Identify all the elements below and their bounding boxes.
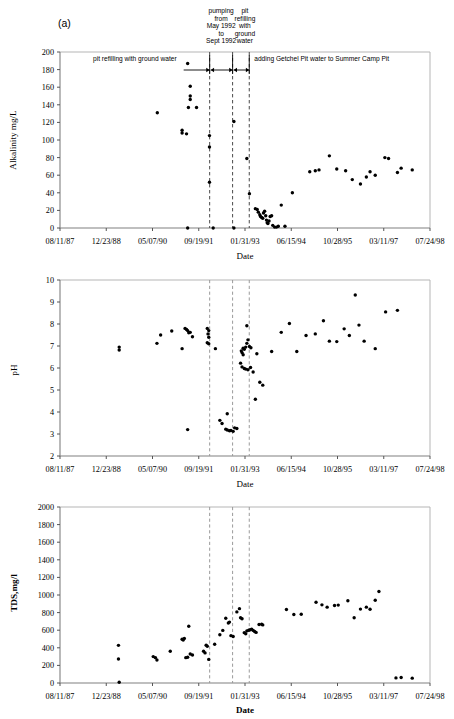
data-point: [374, 347, 377, 350]
data-point: [244, 345, 247, 348]
data-point: [308, 170, 311, 173]
data-point: [189, 85, 192, 88]
data-point: [203, 651, 206, 654]
data-point: [211, 226, 214, 229]
data-point: [328, 339, 331, 342]
y-tick-label: 0: [50, 224, 54, 233]
data-point: [387, 157, 390, 160]
y-tick-label: 200: [42, 661, 54, 670]
data-point: [359, 182, 362, 185]
x-tick-label: 08/11/87: [46, 465, 75, 474]
data-point: [377, 590, 380, 593]
y-tick-label: 1200: [38, 573, 54, 582]
x-tick-label: 10/28/95: [323, 465, 352, 474]
annotation-pumping-line: Sept 1992: [206, 37, 236, 45]
data-point: [208, 181, 211, 184]
annotation-pit-refilling-left: pit refilling with ground water: [93, 55, 177, 63]
data-point: [314, 601, 317, 604]
data-point: [213, 643, 216, 646]
data-point: [292, 613, 295, 616]
x-tick-label: 06/15/94: [277, 465, 306, 474]
data-point: [359, 607, 362, 610]
data-point: [249, 346, 252, 349]
x-tick-label: 12/23/88: [92, 692, 121, 701]
data-point: [187, 625, 190, 628]
y-tick-label: 0: [50, 679, 54, 688]
data-point: [254, 398, 257, 401]
y-tick-label: 2000: [38, 503, 54, 512]
data-point: [186, 656, 189, 659]
y-tick-label: 2: [50, 452, 54, 461]
data-point: [155, 342, 158, 345]
data-point: [354, 293, 357, 296]
data-point: [348, 334, 351, 337]
annotation-refilling-line: with: [238, 22, 251, 29]
data-point: [206, 332, 209, 335]
data-point: [374, 174, 377, 177]
y-tick-label: 3: [50, 430, 54, 439]
data-point: [368, 170, 371, 173]
data-point: [261, 217, 264, 220]
data-point: [383, 156, 386, 159]
x-tick-label: 09/19/91: [184, 237, 213, 246]
y-tick-label: 1600: [38, 538, 54, 547]
data-point: [374, 599, 377, 602]
data-point: [254, 631, 257, 634]
data-point: [218, 419, 221, 422]
data-point: [277, 225, 280, 228]
data-point: [337, 603, 340, 606]
data-point: [221, 629, 224, 632]
data-point: [263, 210, 266, 213]
data-point: [320, 603, 323, 606]
y-tick-label: 80: [46, 154, 54, 163]
annotation-refilling-line: water: [236, 37, 254, 44]
data-point: [208, 145, 211, 148]
data-point: [240, 617, 243, 620]
data-point: [258, 381, 261, 384]
x-tick-label: 05/07/90: [138, 692, 167, 701]
data-point: [245, 342, 248, 345]
data-point: [344, 169, 347, 172]
x-tick-label: 03/11/97: [369, 237, 398, 246]
data-point: [384, 310, 387, 313]
data-point: [207, 329, 210, 332]
x-tick-label: 01/31/93: [230, 237, 259, 246]
x-tick-label: 05/07/90: [138, 237, 167, 246]
data-point: [239, 361, 242, 364]
data-point: [396, 171, 399, 174]
y-tick-label: 8: [50, 320, 54, 329]
y-tick-label: 7: [50, 342, 54, 351]
data-point: [170, 329, 173, 332]
x-tick-label: 08/11/87: [46, 237, 75, 246]
y-tick-label: 40: [46, 189, 54, 198]
y-tick-label: 4: [50, 408, 54, 417]
x-tick-label: 08/11/87: [46, 692, 75, 701]
data-point: [235, 427, 238, 430]
data-point: [325, 605, 328, 608]
ph-plot: 2345678910 08/11/8712/23/8805/07/9009/19…: [0, 265, 454, 493]
data-point: [304, 334, 307, 337]
y-tick-label: 5: [50, 386, 54, 395]
data-point: [232, 226, 235, 229]
data-point: [207, 336, 210, 339]
y-axis-title-alkalinity: Alkalinity mg/L: [8, 110, 18, 170]
alkalinity-plot: 020406080100120140160180200 08/11/8712/2…: [0, 0, 454, 265]
data-point: [189, 98, 192, 101]
data-point: [333, 604, 336, 607]
data-point: [218, 633, 221, 636]
data-point: [351, 178, 354, 181]
data-point: [365, 175, 368, 178]
data-point: [255, 352, 258, 355]
data-point: [214, 347, 217, 350]
data-point: [180, 131, 183, 134]
data-point: [352, 616, 355, 619]
x-tick-label: 10/28/95: [323, 237, 352, 246]
data-point: [365, 605, 368, 608]
data-point: [362, 339, 365, 342]
y-tick-label: 200: [42, 48, 54, 57]
data-point: [232, 120, 235, 123]
x-tick-label: 05/07/90: [138, 465, 167, 474]
data-point: [368, 608, 371, 611]
x-tick-label: 06/15/94: [277, 237, 306, 246]
data-point: [156, 111, 159, 114]
